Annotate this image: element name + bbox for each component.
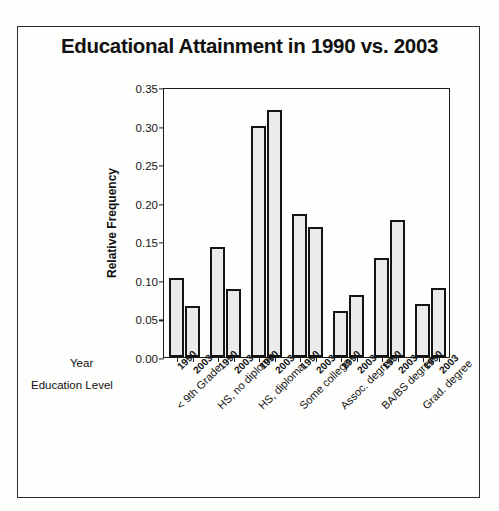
chart-title: Educational Attainment in 1990 vs. 2003 xyxy=(0,34,499,58)
bar xyxy=(374,258,389,357)
y-axis-tick-mark xyxy=(159,204,164,205)
y-axis-tick-mark xyxy=(159,358,164,359)
bar xyxy=(349,295,364,357)
y-axis-tick-label: 0.30 xyxy=(136,122,158,134)
bar xyxy=(415,304,430,357)
y-axis-tick-label: 0.15 xyxy=(136,237,158,249)
y-axis-tick-label: 0.35 xyxy=(136,83,158,95)
bar xyxy=(251,126,266,357)
y-axis-label: Relative Frequency xyxy=(105,168,119,278)
bar xyxy=(390,220,405,357)
bar xyxy=(431,288,446,357)
bar xyxy=(267,110,282,357)
y-axis-tick-label: 0.05 xyxy=(136,314,158,326)
y-axis-tick-mark xyxy=(159,88,164,89)
bar xyxy=(210,247,225,357)
bar xyxy=(169,278,184,357)
y-axis-tick-label: 0.00 xyxy=(136,353,158,365)
bar xyxy=(292,214,307,357)
plot-area: 0.000.050.100.150.200.250.300.35 xyxy=(163,88,450,358)
y-axis-tick-mark xyxy=(159,127,164,128)
bar xyxy=(308,227,323,357)
y-axis-tick-mark xyxy=(159,320,164,321)
y-axis-tick-label: 0.10 xyxy=(136,276,158,288)
bar xyxy=(226,289,241,357)
y-axis-tick-label: 0.20 xyxy=(136,199,158,211)
year-row-label: Year xyxy=(70,357,93,369)
chart-page: Educational Attainment in 1990 vs. 2003 … xyxy=(0,0,499,511)
y-axis-tick-mark xyxy=(159,166,164,167)
bar xyxy=(333,311,348,357)
y-axis-tick-mark xyxy=(159,281,164,282)
education-level-row-label: Education Level xyxy=(31,379,113,391)
y-axis-tick-mark xyxy=(159,243,164,244)
y-axis-tick-label: 0.25 xyxy=(136,160,158,172)
